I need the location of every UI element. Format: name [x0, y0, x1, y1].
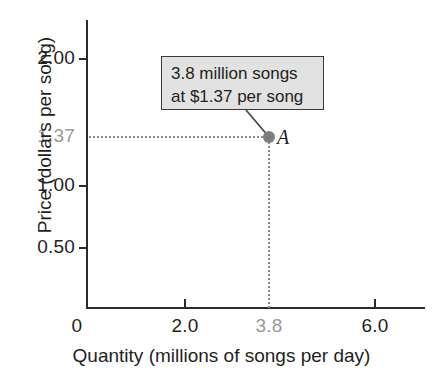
y-axis-line — [86, 20, 88, 309]
y-axis-title: Price (dollars per song) — [34, 5, 56, 265]
x-tick-mark-2-0 — [184, 299, 186, 308]
y-tick-mark-0-50 — [79, 247, 88, 249]
price-quantity-scatter-chart: 2.00 1.37 1.00 0.50 0 2.0 3.8 6.0 Quanti… — [0, 0, 443, 383]
x-axis-title: Quantity (millions of songs per day) — [0, 345, 443, 367]
guide-line-vertical-3-8 — [268, 137, 270, 308]
y-tick-mark-1-00 — [79, 185, 88, 187]
x-tick-label-0: 0 — [37, 315, 117, 337]
x-tick-label-3-8: 3.8 — [229, 315, 309, 337]
y-tick-mark-2-00 — [79, 58, 88, 60]
data-point-a — [263, 131, 275, 143]
annotation-line-2: at $1.37 per song — [171, 85, 314, 108]
data-point-label-a: A — [277, 126, 289, 149]
annotation-callout-box: 3.8 million songs at $1.37 per song — [161, 56, 324, 110]
annotation-line-1: 3.8 million songs — [171, 62, 314, 85]
x-tick-mark-6-0 — [374, 299, 376, 308]
x-tick-label-2-0: 2.0 — [145, 315, 225, 337]
x-tick-label-6-0: 6.0 — [335, 315, 415, 337]
